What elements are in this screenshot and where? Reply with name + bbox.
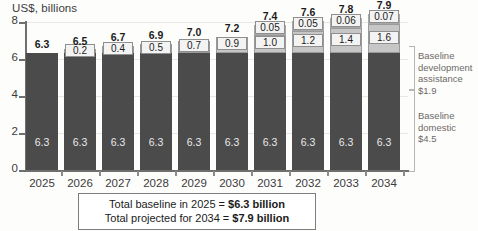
x-tick-2032 xyxy=(327,171,329,176)
x-axis-label-2033: 2033 xyxy=(326,177,366,189)
bar-mid-value-2029: 0.7 xyxy=(179,39,209,52)
bar-total-label-2029: 7.0 xyxy=(176,26,212,38)
x-tick-2025 xyxy=(61,171,63,176)
bar-total-label-2028: 6.9 xyxy=(138,29,174,41)
bar-base-label-2034: 6.3 xyxy=(368,136,400,148)
x-tick-2028 xyxy=(175,171,177,176)
bar-segment-base-2029 xyxy=(178,53,210,170)
bar-segment-base-2026 xyxy=(64,53,96,170)
y-tick-6 xyxy=(19,59,26,61)
x-axis-line xyxy=(25,170,409,172)
bar-base-label-2026: 6.3 xyxy=(64,136,96,148)
legend-dom-line1: Baseline xyxy=(418,110,476,122)
y-tick-label-0: 0 xyxy=(0,162,18,174)
x-tick-2027 xyxy=(137,171,139,176)
bar-2026[interactable]: 6.30.26.5 xyxy=(64,22,96,170)
bar-base-label-2030: 6.3 xyxy=(216,136,248,148)
bar-total-label-2034: 7.9 xyxy=(366,0,402,11)
bar-base-label-2031: 6.3 xyxy=(254,136,286,148)
bar-2033[interactable]: 6.31.40.067.8 xyxy=(330,22,362,170)
bar-total-label-2031: 7.4 xyxy=(252,10,288,22)
bar-total-label-2026: 6.5 xyxy=(62,35,98,47)
x-axis-label-2028: 2028 xyxy=(136,177,176,189)
bar-base-label-2033: 6.3 xyxy=(330,136,362,148)
bar-base-label-2032: 6.3 xyxy=(292,136,324,148)
x-tick-2033 xyxy=(365,171,367,176)
caption-line1-prefix: Total baseline in 2025 = xyxy=(109,198,228,210)
bar-2025[interactable]: 6.36.3 xyxy=(26,22,58,170)
bar-mid-value-2034: 1.6 xyxy=(369,31,399,44)
bar-segment-base-2032 xyxy=(292,53,324,170)
x-tick-2030 xyxy=(251,171,253,176)
bar-total-label-2027: 6.7 xyxy=(100,31,136,43)
bar-segment-base-2025 xyxy=(26,53,58,170)
x-axis-label-2025: 2025 xyxy=(22,177,62,189)
bar-mid-value-2031: 1.0 xyxy=(255,36,285,49)
legend-development-assistance: Baseline development assistance $1.9 xyxy=(418,50,476,96)
y-tick-0 xyxy=(19,170,26,172)
legend-bracket-domestic xyxy=(409,90,415,172)
y-tick-8 xyxy=(19,22,26,24)
bar-mid-value-2033: 1.4 xyxy=(331,33,361,46)
x-tick-2031 xyxy=(289,171,291,176)
bar-mid-value-2028: 0.5 xyxy=(141,41,171,54)
bar-total-label-2025: 6.3 xyxy=(24,38,60,50)
bar-segment-base-2031 xyxy=(254,53,286,170)
bar-segment-base-2030 xyxy=(216,53,248,170)
caption-box: Total baseline in 2025 = $6.3 billion To… xyxy=(78,193,316,230)
bar-top-value-2034: 0.07 xyxy=(369,10,399,23)
bar-2031[interactable]: 6.31.00.057.4 xyxy=(254,22,286,170)
legend-dom-line2: domestic xyxy=(418,122,476,134)
bar-2029[interactable]: 6.30.77.0 xyxy=(178,22,210,170)
legend-bracket-development xyxy=(409,46,415,90)
bar-total-label-2030: 7.2 xyxy=(214,22,250,34)
stacked-bar-chart: US$, billions 02468 6.36.36.30.26.56.30.… xyxy=(0,0,478,231)
bar-segment-base-2033 xyxy=(330,53,362,170)
legend-dev-value: $1.9 xyxy=(418,85,476,97)
x-tick-2034 xyxy=(403,171,405,176)
bar-mid-value-2030: 0.9 xyxy=(217,37,247,50)
x-axis-label-2032: 2032 xyxy=(288,177,328,189)
y-tick-label-6: 6 xyxy=(0,51,18,63)
y-tick-4 xyxy=(19,96,26,98)
legend-dom-value: $4.5 xyxy=(418,133,476,145)
bar-2028[interactable]: 6.30.56.9 xyxy=(140,22,172,170)
y-axis-title: US$, billions xyxy=(12,2,77,14)
bar-top-value-2032: 0.05 xyxy=(293,17,323,30)
caption-line1-value: $6.3 billion xyxy=(228,198,285,210)
x-tick-2029 xyxy=(213,171,215,176)
bar-base-label-2028: 6.3 xyxy=(140,136,172,148)
legend-dev-line3: assistance xyxy=(418,73,476,85)
y-tick-label-2: 2 xyxy=(0,125,18,137)
x-axis-label-2029: 2029 xyxy=(174,177,214,189)
caption-line-1: Total baseline in 2025 = $6.3 billion xyxy=(79,197,315,211)
y-tick-label-4: 4 xyxy=(0,88,18,100)
bar-2030[interactable]: 6.30.97.2 xyxy=(216,22,248,170)
bar-base-label-2025: 6.3 xyxy=(26,136,58,148)
legend-dev-line2: development xyxy=(418,62,476,74)
bar-top-value-2031: 0.05 xyxy=(255,21,285,34)
caption-line-2: Total projected for 2034 = $7.9 billion xyxy=(79,211,315,225)
x-axis-label-2027: 2027 xyxy=(98,177,138,189)
bar-base-label-2029: 6.3 xyxy=(178,136,210,148)
x-axis-label-2034: 2034 xyxy=(364,177,404,189)
x-axis-label-2031: 2031 xyxy=(250,177,290,189)
bar-segment-base-2028 xyxy=(140,53,172,170)
bar-segment-base-2027 xyxy=(102,53,134,170)
bar-base-label-2027: 6.3 xyxy=(102,136,134,148)
bar-mid-value-2032: 1.2 xyxy=(293,34,323,47)
bar-mid-value-2027: 0.4 xyxy=(103,42,133,55)
bar-2032[interactable]: 6.31.20.057.6 xyxy=(292,22,324,170)
caption-line2-value: $7.9 billion xyxy=(232,212,289,224)
x-axis-label-2030: 2030 xyxy=(212,177,252,189)
legend-domestic: Baseline domestic $4.5 xyxy=(418,110,476,145)
caption-line2-prefix: Total projected for 2034 = xyxy=(105,212,233,224)
legend-dev-line1: Baseline xyxy=(418,50,476,62)
bar-segment-base-2034 xyxy=(368,53,400,170)
bar-total-label-2033: 7.8 xyxy=(328,3,364,15)
y-tick-label-8: 8 xyxy=(0,14,18,26)
bar-2034[interactable]: 6.31.60.077.9 xyxy=(368,22,400,170)
bar-top-value-2033: 0.06 xyxy=(331,14,361,27)
x-tick-2026 xyxy=(99,171,101,176)
bar-2027[interactable]: 6.30.46.7 xyxy=(102,22,134,170)
